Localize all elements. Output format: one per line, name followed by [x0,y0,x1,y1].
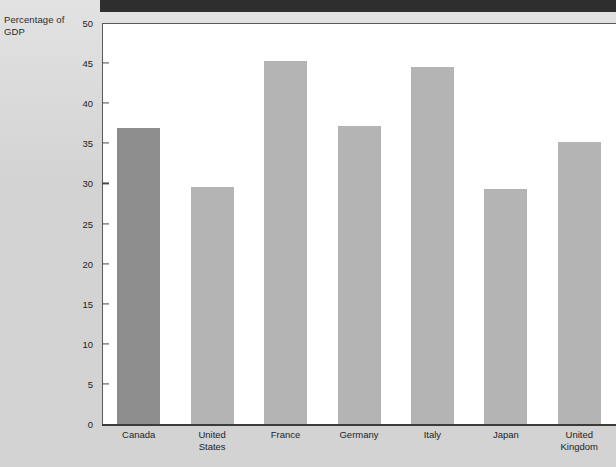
x-axis-labels: CanadaUnitedStatesFranceGermanyItalyJapa… [102,429,616,467]
bar-japan [484,189,527,424]
x-tick-label: UnitedKingdom [543,429,616,452]
x-tick-label-line1: Germany [322,429,395,441]
y-tick-label: 15 [0,298,102,309]
y-tick-label: 50 [0,18,102,29]
y-tick-label: 45 [0,58,102,69]
bar-united-states [191,187,234,424]
x-tick-label: Canada [102,429,175,441]
y-tick-label: 30 [0,178,102,189]
x-tick-label: UnitedStates [175,429,248,452]
x-tick-label: France [249,429,322,441]
bar-canada [117,128,160,424]
y-tick-label: 35 [0,138,102,149]
chart-screenshot: Percentage of GDP 50454035302520151050 C… [0,0,616,467]
bar-france [264,61,307,424]
y-tick-label: 10 [0,338,102,349]
x-tick-label: Germany [322,429,395,441]
y-axis-ticks: 50454035302520151050 [0,0,102,467]
bar-series [102,23,616,424]
y-tick-label: 5 [0,378,102,389]
x-tick-label: Italy [396,429,469,441]
x-tick-label-line1: Japan [469,429,542,441]
x-tick-label-line1: France [249,429,322,441]
y-tick-label: 40 [0,98,102,109]
bar-italy [411,67,454,424]
bar-germany [338,126,381,424]
x-axis-line [102,424,616,426]
x-tick-label-line1: United [543,429,616,441]
top-banner [100,0,616,12]
x-tick-label-line1: United [175,429,248,441]
y-tick-label: 20 [0,258,102,269]
y-tick-label: 25 [0,218,102,229]
x-tick-label-line2: States [175,441,248,453]
x-tick-label: Japan [469,429,542,441]
bar-united-kingdom [558,142,601,424]
x-tick-label-line1: Italy [396,429,469,441]
x-tick-label-line1: Canada [102,429,175,441]
x-tick-label-line2: Kingdom [543,441,616,453]
y-tick-label: 0 [0,419,102,430]
